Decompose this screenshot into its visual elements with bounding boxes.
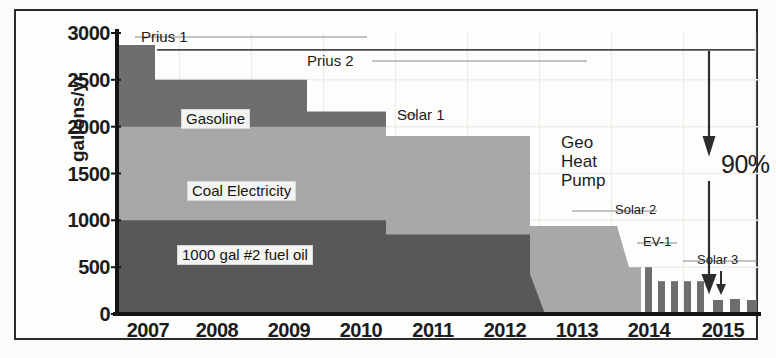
y-tick-0: 0 (48, 303, 110, 326)
y-tick-2000: 2000 (48, 115, 110, 138)
x-axis-ticks: 2007 2008 2009 2010 2011 2012 1013 2014 … (117, 317, 760, 347)
y-tick-500: 500 (48, 256, 110, 279)
y-tick-2500: 2500 (48, 68, 110, 91)
x-tick-2007: 2007 (127, 319, 170, 342)
axis-lines (111, 29, 763, 321)
x-tick-2014: 2014 (628, 319, 671, 342)
x-tick-2008: 2008 (196, 319, 239, 342)
chart-frame: gallons/yr 3000 2500 2000 1500 1000 500 … (14, 9, 758, 340)
y-tick-3000: 3000 (48, 22, 110, 45)
x-tick-2010: 2010 (340, 319, 383, 342)
y-axis-ticks: 3000 2500 2000 1500 1000 500 0 (44, 33, 110, 314)
chart-figure: gallons/yr 3000 2500 2000 1500 1000 500 … (0, 0, 776, 358)
x-tick-2011: 2011 (412, 319, 453, 342)
x-tick-2009: 2009 (268, 319, 311, 342)
y-tick-1500: 1500 (48, 162, 110, 185)
x-tick-2012: 2012 (484, 319, 527, 342)
x-tick-2015: 2015 (702, 319, 745, 342)
x-tick-1013: 1013 (556, 319, 599, 342)
y-tick-1000: 1000 (48, 209, 110, 232)
